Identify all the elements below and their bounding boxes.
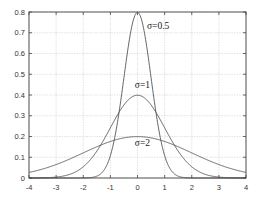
- x-tick-label: -3: [53, 183, 60, 192]
- x-tick-label: 3: [217, 183, 221, 192]
- x-tick-label: 2: [190, 183, 194, 192]
- x-tick-labels: -4-3-2-101234: [26, 183, 248, 192]
- x-tick-label: -1: [107, 183, 114, 192]
- y-tick-label: 0.7: [15, 28, 25, 37]
- x-tick-label: 4: [244, 183, 248, 192]
- y-tick-label: 0.1: [15, 153, 25, 162]
- y-tick-label: 0.3: [15, 111, 25, 120]
- y-tick-label: 0.4: [15, 91, 25, 100]
- y-tick-label: 0.6: [15, 49, 25, 58]
- y-tick-label: 0.5: [15, 70, 25, 79]
- y-tick-label: 0.8: [15, 8, 25, 17]
- x-tick-label: 0: [135, 183, 139, 192]
- y-tick-labels: 00.10.20.30.40.50.60.70.8: [15, 8, 25, 183]
- gaussian-chart: -4-3-2-101234 00.10.20.30.40.50.60.70.8 …: [0, 0, 260, 197]
- x-tick-label: -2: [80, 183, 87, 192]
- x-tick-label: 1: [163, 183, 167, 192]
- curve-label: σ=0.5: [147, 21, 170, 31]
- curve-label: σ=1: [135, 80, 150, 90]
- y-tick-label: 0: [21, 174, 25, 183]
- x-tick-label: -4: [26, 183, 33, 192]
- y-tick-label: 0.2: [15, 132, 25, 141]
- curve-label: σ=2: [135, 138, 150, 148]
